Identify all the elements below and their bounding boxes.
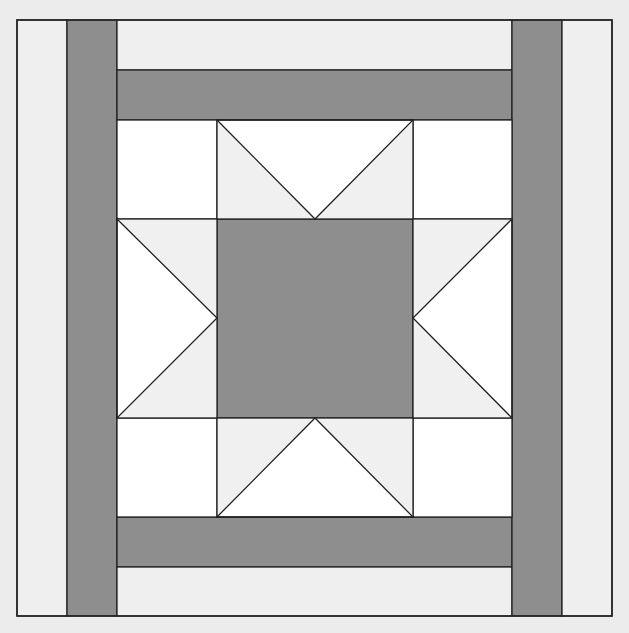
- corner-square-top-right: [413, 120, 512, 219]
- top-dark-strip: [117, 70, 512, 120]
- ohio-star: [117, 120, 512, 517]
- star-point-left: [117, 219, 217, 418]
- right-dark-strip: [512, 20, 562, 616]
- corner-square-top-left: [117, 120, 217, 219]
- star-point-right: [413, 219, 512, 418]
- bottom-dark-strip: [117, 517, 512, 567]
- corner-square-bottom-left: [117, 418, 217, 517]
- left-dark-strip: [67, 20, 117, 616]
- center-square: [217, 219, 413, 418]
- outer-left-light-strip: [17, 20, 67, 616]
- star-point-top: [217, 120, 413, 219]
- star-point-bottom: [217, 418, 413, 517]
- outer-right-light-strip: [562, 20, 612, 616]
- corner-square-bottom-right: [413, 418, 512, 517]
- top-light-strip: [117, 20, 512, 70]
- bottom-light-strip: [117, 567, 512, 616]
- quilt-block-diagram: [0, 0, 629, 633]
